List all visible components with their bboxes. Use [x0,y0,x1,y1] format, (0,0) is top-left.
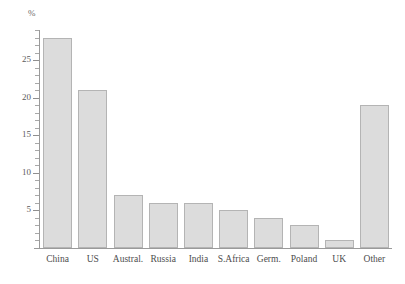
y-axis-tick-labels: 510152025 [0,0,31,284]
y-tick-major [33,98,39,99]
y-tick-minor [35,188,39,189]
bar [114,195,143,248]
bar [325,240,354,248]
y-tick-minor [35,218,39,219]
y-tick-minor [35,68,39,69]
y-tick-minor [35,38,39,39]
y-tick-minor [35,90,39,91]
bar-chart: % 510152025 ChinaUSAustral.RussiaIndiaS.… [0,0,405,284]
x-axis-category-labels: ChinaUSAustral.RussiaIndiaS.AfricaGerm.P… [40,252,392,270]
bar [43,38,72,248]
bar [290,225,319,248]
y-tick-minor [35,225,39,226]
y-tick-label: 20 [7,93,31,102]
y-tick-minor [35,53,39,54]
y-tick-minor [35,30,39,31]
y-tick-minor [35,240,39,241]
y-tick-minor [35,195,39,196]
y-tick-minor [35,180,39,181]
bar [184,203,213,248]
x-axis-line [34,248,392,249]
y-tick-label: 5 [7,205,31,214]
plot-area [40,30,392,248]
y-tick-minor [35,83,39,84]
y-tick-major [33,210,39,211]
y-tick-minor [35,150,39,151]
y-tick-minor [35,75,39,76]
x-category-label: Other [354,252,395,266]
y-tick-minor [35,45,39,46]
bar [78,90,107,248]
bar [219,210,248,248]
y-tick-label: 10 [7,168,31,177]
y-tick-label: 15 [7,130,31,139]
y-tick-label: 25 [7,55,31,64]
bar [360,105,389,248]
y-tick-minor [35,233,39,234]
y-tick-minor [35,120,39,121]
y-tick-major [33,135,39,136]
y-tick-minor [35,113,39,114]
y-tick-minor [35,165,39,166]
bars-layer [40,30,392,248]
y-tick-minor [35,128,39,129]
y-tick-major [33,173,39,174]
bar [254,218,283,248]
y-tick-major [33,60,39,61]
y-tick-minor [35,203,39,204]
y-tick-minor [35,143,39,144]
y-tick-minor [35,158,39,159]
bar [149,203,178,248]
y-tick-minor [35,105,39,106]
